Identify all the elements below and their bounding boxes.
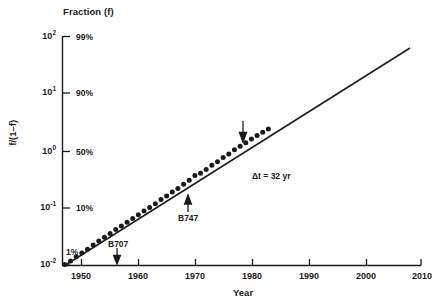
y-tick-marks	[63, 37, 71, 266]
chart-figure: Fraction (f) f/(1–f) Year 102 101 100 10…	[0, 0, 440, 308]
y-percent-label-1: 1%	[66, 248, 78, 257]
x-tick-marks	[82, 259, 422, 266]
arrow-unlabeled-1979	[239, 121, 246, 142]
data-point	[209, 163, 214, 168]
data-point	[62, 262, 67, 267]
data-point	[266, 127, 271, 132]
arrow-b707	[114, 248, 121, 264]
data-point	[215, 159, 220, 164]
data-point	[113, 227, 118, 232]
data-point	[260, 130, 265, 135]
arrow-b747	[185, 195, 192, 212]
data-point	[136, 212, 141, 217]
data-point	[192, 173, 197, 178]
data-point	[91, 242, 96, 247]
annotation-delta-t: Δt = 32 yr	[252, 172, 290, 181]
data-point	[170, 189, 175, 194]
data-point	[232, 147, 237, 152]
y-tick-label-1e-2: 10-2	[22, 260, 56, 269]
x-tick-label-2000: 2000	[346, 272, 386, 281]
y-tick-label-1e1: 101	[22, 88, 56, 97]
plot-canvas	[0, 0, 440, 308]
x-tick-label-1970: 1970	[175, 272, 215, 281]
data-point	[96, 239, 101, 244]
data-point	[226, 151, 231, 156]
data-point	[255, 133, 260, 138]
data-point	[79, 250, 84, 255]
data-point	[175, 186, 180, 191]
data-point	[85, 247, 90, 252]
data-point	[119, 224, 124, 229]
data-point	[147, 205, 152, 210]
chart-title: Fraction (f)	[63, 7, 114, 17]
data-point	[142, 209, 147, 214]
x-axis-label: Year	[233, 288, 253, 298]
data-point	[243, 140, 248, 145]
y-tick-label-1e0: 100	[22, 147, 56, 156]
data-point	[130, 216, 135, 221]
data-point	[125, 220, 130, 225]
data-point	[204, 167, 209, 172]
data-point	[198, 171, 203, 176]
data-point	[249, 137, 254, 142]
x-tick-label-1990: 1990	[289, 272, 329, 281]
data-point-group	[62, 127, 271, 267]
y-tick-label-1e-1: 10-1	[22, 203, 56, 212]
x-tick-label-1980: 1980	[232, 272, 272, 281]
y-percent-label-99: 99%	[76, 33, 93, 42]
data-point	[158, 197, 163, 202]
data-point	[221, 155, 226, 160]
y-percent-label-10: 10%	[76, 204, 93, 213]
data-point	[238, 144, 243, 149]
y-axis-label: f/(1–f)	[8, 107, 18, 159]
annotation-b707-label: B707	[108, 240, 128, 249]
y-percent-label-90: 90%	[76, 89, 93, 98]
fit-line	[64, 48, 410, 266]
data-point	[153, 201, 158, 206]
data-point	[68, 258, 73, 263]
data-point	[181, 182, 186, 187]
x-tick-label-1960: 1960	[118, 272, 158, 281]
y-percent-label-50: 50%	[76, 148, 93, 157]
data-point	[187, 178, 192, 183]
data-point	[164, 193, 169, 198]
y-tick-label-1e2: 102	[22, 32, 56, 41]
annotation-b747-label: B747	[178, 214, 198, 223]
data-point	[102, 235, 107, 240]
data-point	[108, 231, 113, 236]
x-tick-label-1950: 1950	[61, 272, 101, 281]
x-tick-label-2010: 2010	[402, 272, 440, 281]
